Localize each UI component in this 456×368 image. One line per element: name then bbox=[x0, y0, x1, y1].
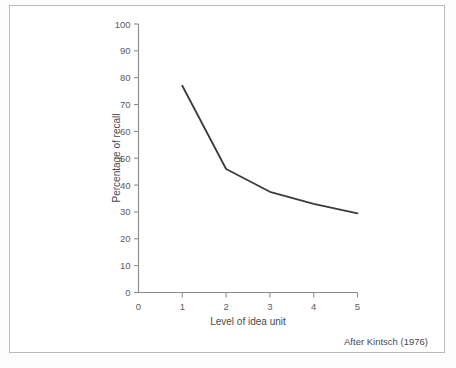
y-tick-label: 30 bbox=[120, 206, 131, 217]
x-tick-label: 3 bbox=[267, 301, 272, 312]
recall-by-idea-unit-level-line-chart: 0102030405060708090100 012345 Percentage… bbox=[0, 0, 456, 368]
y-tick-label: 90 bbox=[120, 45, 131, 56]
x-axis-ticks bbox=[182, 293, 357, 298]
source-attribution-note: After Kintsch (1976) bbox=[344, 336, 428, 347]
y-tick-label: 70 bbox=[120, 99, 131, 110]
x-axis-tick-labels: 012345 bbox=[136, 301, 360, 312]
y-tick-label: 0 bbox=[125, 287, 130, 298]
x-tick-label: 4 bbox=[311, 301, 316, 312]
y-axis-ticks bbox=[134, 24, 139, 293]
figure-root: 0102030405060708090100 012345 Percentage… bbox=[0, 0, 456, 368]
x-tick-label: 1 bbox=[180, 301, 185, 312]
y-tick-label: 20 bbox=[120, 233, 131, 244]
x-axis-title: Level of idea unit bbox=[210, 316, 286, 327]
y-axis-title: Percentage of recall bbox=[111, 114, 122, 203]
y-tick-label: 10 bbox=[120, 260, 131, 271]
y-tick-label: 100 bbox=[115, 19, 131, 30]
y-tick-label: 80 bbox=[120, 72, 131, 83]
x-tick-label: 5 bbox=[355, 301, 360, 312]
x-tick-label: 2 bbox=[223, 301, 228, 312]
recall-data-line bbox=[182, 86, 357, 214]
x-tick-label: 0 bbox=[136, 301, 141, 312]
